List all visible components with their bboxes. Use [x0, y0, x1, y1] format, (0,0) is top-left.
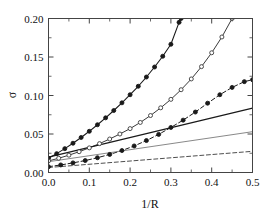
x-tick-label: 0.2 [123, 176, 137, 188]
y-tick-label: 0.00 [24, 167, 44, 179]
data-point-curve-2-open-circles [128, 127, 132, 131]
y-tick-label: 0.05 [24, 128, 44, 140]
data-point-curve-2-open-circles [138, 120, 142, 124]
series-line-curve-1-steep-filled-circles [49, 19, 182, 159]
data-point-curve-3-dashed-filled-circles [206, 101, 210, 105]
data-point-curve-3-dashed-filled-circles [132, 144, 136, 148]
data-point-curve-3-dashed-filled-circles [95, 156, 99, 160]
data-point-curve-2-open-circles [210, 51, 214, 55]
data-point-curve-2-open-circles [108, 137, 112, 141]
data-point-curve-1-steep-filled-circles [87, 129, 91, 133]
data-point-curve-3-dashed-filled-circles [181, 118, 185, 122]
data-point-curve-1-steep-filled-circles [128, 93, 132, 97]
y-tick-label: 0.15 [24, 51, 44, 63]
data-point-curve-2-open-circles [57, 156, 61, 160]
data-point-curve-1-steep-filled-circles [71, 141, 75, 145]
data-point-curve-2-open-circles [220, 35, 224, 39]
data-point-curve-2-open-circles [189, 77, 193, 81]
data-point-curve-1-steep-filled-circles [136, 84, 140, 88]
data-point-curve-3-dashed-filled-circles [193, 110, 197, 114]
data-point-curve-1-steep-filled-circles [169, 42, 173, 46]
data-point-curve-3-dashed-filled-circles [83, 159, 87, 163]
plot-canvas: 0.00.10.20.30.40.5 0.000.050.100.150.20 … [0, 0, 273, 214]
x-tick-label: 0.5 [246, 176, 260, 188]
x-tick-label: 0.4 [205, 176, 219, 188]
data-point-curve-2-open-circles [169, 97, 173, 101]
data-point-curve-2-open-circles [67, 153, 71, 157]
data-point-curve-3-dashed-filled-circles [218, 93, 222, 97]
data-point-curve-1-steep-filled-circles [63, 147, 67, 151]
data-point-curve-1-steep-filled-circles [95, 123, 99, 127]
x-tick-label: 0.0 [42, 176, 56, 188]
data-point-curve-1-steep-filled-circles [153, 65, 157, 69]
chart-figure: 0.00.10.20.30.40.5 0.000.050.100.150.20 … [0, 0, 273, 214]
y-tick-label: 0.20 [24, 13, 44, 25]
y-tick-label: 0.10 [24, 90, 44, 102]
data-point-curve-1-steep-filled-circles [161, 54, 165, 58]
data-point-curve-3-dashed-filled-circles [59, 163, 63, 167]
series-line-curve-2-open-circles [49, 19, 233, 161]
data-point-curve-1-steep-filled-circles [120, 101, 124, 105]
x-tick-label: 0.3 [164, 176, 178, 188]
plot-curves [49, 19, 253, 168]
data-point-curve-2-open-circles [149, 114, 153, 118]
data-point-curve-3-dashed-filled-circles [120, 149, 124, 153]
y-axis-tick-labels: 0.000.050.100.150.20 [24, 13, 44, 179]
data-point-curve-3-dashed-filled-circles [144, 139, 148, 143]
x-axis-tick-labels: 0.00.10.20.30.40.5 [42, 176, 260, 188]
y-axis-title: σ [5, 91, 19, 98]
x-tick-label: 0.1 [82, 176, 96, 188]
data-point-curve-1-steep-filled-circles [144, 75, 148, 79]
x-axis-title: 1/R [141, 197, 158, 211]
data-point-curve-1-steep-filled-circles [55, 152, 59, 156]
data-point-curve-3-dashed-filled-circles [108, 152, 112, 156]
data-point-curve-1-steep-filled-circles [104, 116, 108, 120]
data-point-curve-2-open-circles [77, 150, 81, 154]
data-point-curve-3-dashed-filled-circles [169, 125, 173, 129]
data-point-curve-3-dashed-filled-circles [71, 161, 75, 165]
data-point-curve-1-steep-filled-circles [177, 20, 181, 24]
data-point-curve-3-dashed-filled-circles [230, 85, 234, 89]
data-point-curve-2-open-circles [98, 142, 102, 146]
data-point-curve-1-steep-filled-circles [112, 109, 116, 113]
data-point-curve-2-open-circles [179, 88, 183, 92]
data-point-curve-2-open-circles [87, 146, 91, 150]
data-point-curve-1-steep-filled-circles [79, 135, 83, 139]
data-point-curve-3-dashed-filled-circles [157, 132, 161, 136]
data-point-curve-2-open-circles [200, 65, 204, 69]
data-point-curve-2-open-circles [118, 132, 122, 136]
data-point-curve-2-open-circles [159, 106, 163, 110]
data-point-curve-3-dashed-filled-circles [242, 80, 246, 84]
